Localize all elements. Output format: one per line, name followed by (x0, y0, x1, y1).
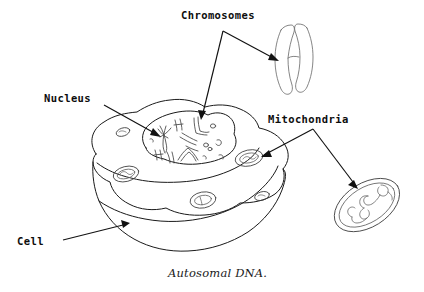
magnified-mitochondrion (325, 167, 409, 242)
label-cell: Cell (17, 235, 44, 247)
leader-mitochondria-to-cell-organelle (261, 129, 313, 157)
nucleus (143, 111, 237, 164)
leader-chromosomes-to-magnified (223, 31, 279, 61)
label-nucleus: Nucleus (44, 92, 91, 104)
chromosomes-in-nucleus (150, 117, 223, 163)
magnified-chromosome (275, 24, 313, 94)
diagram-canvas: Chromosomes Nucleus Mitochondria Cell Au… (0, 0, 424, 292)
leader-nucleus (104, 105, 161, 137)
mitochondrial-dna-loop (348, 185, 393, 223)
label-mitochondria: Mitochondria (268, 113, 349, 125)
cell-body (92, 99, 288, 251)
mitochondrion-arrow-target (234, 147, 265, 168)
leader-lines (63, 31, 358, 240)
leader-mitochondria-to-magnified (313, 129, 358, 189)
leader-cell (63, 220, 130, 240)
cell-diagram: Chromosomes Nucleus Mitochondria Cell Au… (0, 0, 424, 292)
figure-caption: Autosomal DNA. (167, 266, 267, 280)
mitochondria-in-cytoplasm (112, 126, 271, 210)
label-chromosomes: Chromosomes (181, 9, 255, 21)
leader-chromosomes-to-nucleus (198, 31, 223, 120)
